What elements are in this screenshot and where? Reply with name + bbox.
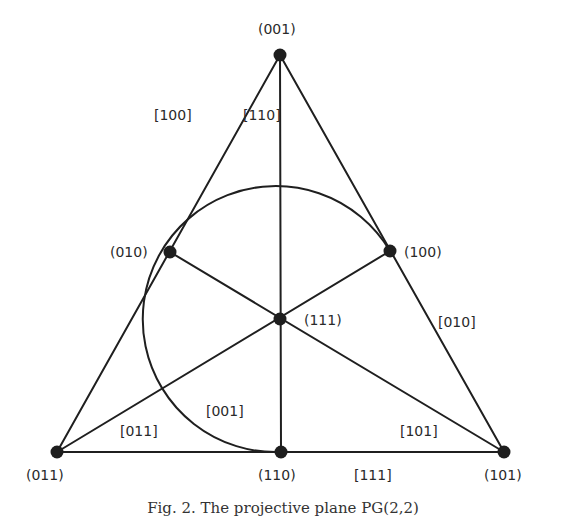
point-label-011: (011) (26, 467, 64, 483)
point-011 (51, 446, 64, 459)
line-011 (57, 251, 390, 452)
line-label-101: [101] (400, 423, 438, 439)
line-label-100: [100] (154, 107, 192, 123)
point-label-100: (100) (404, 244, 442, 260)
point-label-001: (001) (258, 21, 296, 37)
line-label-110: [110] (243, 107, 281, 123)
point-111 (274, 313, 287, 326)
line-label-010: [010] (438, 314, 476, 330)
point-110 (275, 446, 288, 459)
figure-caption: Fig. 2. The projective plane PG(2,2) (147, 499, 419, 516)
point-label-010: (010) (110, 244, 148, 260)
point-001 (274, 49, 287, 62)
point-010 (164, 246, 177, 259)
line-label-011: [011] (120, 423, 158, 439)
point-101 (498, 446, 511, 459)
pg22-diagram: (001) (010) (100) (111) (011) (110) (101… (0, 0, 566, 516)
point-100 (384, 245, 397, 258)
point-label-110: (110) (258, 467, 296, 483)
point-label-111: (111) (304, 312, 342, 328)
line-label-001: [001] (206, 403, 244, 419)
point-label-101: (101) (484, 467, 522, 483)
line-001-arc (143, 186, 390, 452)
line-label-111: [111] (354, 467, 392, 483)
